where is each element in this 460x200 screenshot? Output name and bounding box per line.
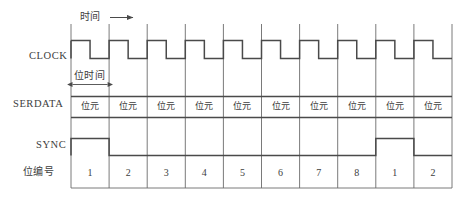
bit-number-cell: 6 [262,168,300,178]
serdata-cell: 位元 [376,102,414,111]
bit-number-cell: 8 [338,168,376,178]
bit-number-cell: 3 [147,168,185,178]
serdata-cell: 位元 [223,102,261,111]
bit-number-cell: 2 [109,168,147,178]
bit-number-cell: 2 [414,168,452,178]
bit-time-label: 位时间 [74,71,105,81]
waveform-clock [71,41,452,59]
serdata-cell: 位元 [71,102,109,111]
serdata-cell: 位元 [185,102,223,111]
bit-number-cell: 7 [300,168,338,178]
serdata-cell: 位元 [414,102,452,111]
bit-number-cell: 4 [185,168,223,178]
serdata-cell: 位元 [262,102,300,111]
bit-number-cell: 1 [71,168,109,178]
bit-number-cell: 1 [376,168,414,178]
bit-number-cell: 5 [223,168,261,178]
timing-diagram: CLOCK SERDATA SYNC 位编号 时间 [0,0,460,200]
serdata-cell: 位元 [338,102,376,111]
serdata-cell: 位元 [147,102,185,111]
serdata-cell: 位元 [300,102,338,111]
serdata-cell: 位元 [109,102,147,111]
